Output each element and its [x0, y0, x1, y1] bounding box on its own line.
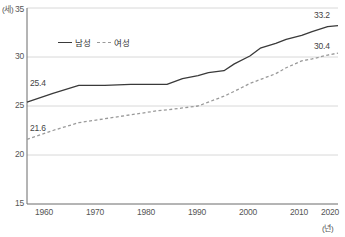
line-series-male	[27, 26, 338, 102]
gridlines	[27, 8, 338, 155]
chart-plot-area	[0, 0, 345, 237]
chart-container: (세) 35 30 25 20 15 1960 1970 1980 1990 2…	[0, 0, 345, 237]
line-series-female	[27, 53, 338, 139]
